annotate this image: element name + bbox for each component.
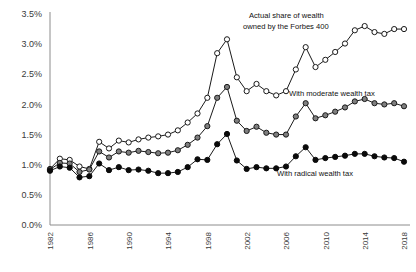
data-point bbox=[116, 165, 121, 170]
data-series-group bbox=[47, 23, 406, 180]
data-point bbox=[146, 135, 151, 140]
data-point bbox=[195, 135, 200, 140]
data-point bbox=[401, 104, 406, 109]
data-point bbox=[97, 139, 102, 144]
data-point bbox=[195, 111, 200, 116]
series-annotation-label: Actual share of wealth bbox=[249, 11, 324, 20]
data-point bbox=[342, 105, 347, 110]
wealth-share-chart: 0.0%0.5%1.0%1.5%2.0%2.5%3.0%3.5% 1982198… bbox=[0, 0, 416, 272]
data-point bbox=[47, 168, 52, 173]
data-point bbox=[362, 23, 367, 28]
data-point bbox=[244, 128, 249, 133]
x-tick-label: 2018 bbox=[400, 231, 409, 249]
data-point bbox=[126, 140, 131, 145]
data-point bbox=[323, 155, 328, 160]
x-tick-label: 1986 bbox=[86, 231, 95, 249]
data-point bbox=[382, 102, 387, 107]
data-point bbox=[283, 89, 288, 94]
data-point bbox=[136, 167, 141, 172]
x-tick-label: 2006 bbox=[282, 231, 291, 249]
data-point bbox=[156, 134, 161, 139]
data-point bbox=[126, 168, 131, 173]
data-point bbox=[244, 89, 249, 94]
data-point bbox=[165, 171, 170, 176]
data-point bbox=[215, 51, 220, 56]
data-point bbox=[215, 95, 220, 100]
data-point bbox=[392, 155, 397, 160]
data-point bbox=[205, 157, 210, 162]
data-point bbox=[146, 168, 151, 173]
data-point bbox=[372, 29, 377, 34]
x-tick-label: 2014 bbox=[361, 231, 370, 249]
data-point bbox=[224, 37, 229, 42]
x-axis: 1982198619901994199820022006201020142018 bbox=[46, 225, 410, 250]
data-point bbox=[372, 101, 377, 106]
y-tick-label: 0.5% bbox=[21, 190, 42, 200]
data-point bbox=[97, 149, 102, 154]
data-point bbox=[234, 75, 239, 80]
data-point bbox=[234, 118, 239, 123]
data-point bbox=[254, 124, 259, 129]
y-tick-label: 2.5% bbox=[21, 69, 42, 79]
data-point bbox=[234, 158, 239, 163]
data-point bbox=[67, 165, 72, 170]
data-point bbox=[116, 138, 121, 143]
data-point bbox=[195, 157, 200, 162]
data-point bbox=[333, 109, 338, 114]
data-point bbox=[264, 130, 269, 135]
x-tick-label: 1994 bbox=[164, 231, 173, 249]
data-point bbox=[87, 174, 92, 179]
data-point bbox=[401, 26, 406, 31]
y-tick-label: 0.0% bbox=[21, 220, 42, 230]
data-point bbox=[333, 154, 338, 159]
data-point bbox=[136, 137, 141, 142]
data-point bbox=[77, 175, 82, 180]
x-tick-label: 1982 bbox=[46, 231, 55, 249]
y-tick-label: 2.0% bbox=[21, 100, 42, 110]
series-line bbox=[50, 87, 404, 172]
data-point bbox=[323, 113, 328, 118]
data-point bbox=[382, 155, 387, 160]
x-tick-label: 2010 bbox=[322, 231, 331, 249]
data-point bbox=[106, 168, 111, 173]
data-point bbox=[185, 165, 190, 170]
data-point bbox=[352, 151, 357, 156]
series-annotation-label: With radical wealth tax bbox=[277, 169, 353, 178]
data-point bbox=[57, 164, 62, 169]
data-point bbox=[254, 165, 259, 170]
data-point bbox=[97, 161, 102, 166]
data-point bbox=[116, 149, 121, 154]
data-point bbox=[165, 150, 170, 155]
y-tick-label: 1.5% bbox=[21, 130, 42, 140]
data-point bbox=[274, 132, 279, 137]
data-point bbox=[165, 132, 170, 137]
data-point bbox=[185, 142, 190, 147]
data-point bbox=[392, 101, 397, 106]
data-point bbox=[244, 166, 249, 171]
data-point bbox=[205, 124, 210, 129]
y-tick-label: 3.5% bbox=[21, 9, 42, 19]
data-point bbox=[293, 67, 298, 72]
y-axis: 0.0%0.5%1.0%1.5%2.0%2.5%3.0%3.5% bbox=[21, 9, 50, 230]
y-tick-label: 3.0% bbox=[21, 39, 42, 49]
series-annotation-label: owned by the Forbes 400 bbox=[243, 22, 329, 31]
x-tick-label: 2002 bbox=[243, 231, 252, 249]
data-point bbox=[313, 64, 318, 69]
data-point bbox=[215, 142, 220, 147]
y-tick-label: 1.0% bbox=[21, 160, 42, 170]
data-point bbox=[205, 95, 210, 100]
data-point bbox=[362, 151, 367, 156]
data-point bbox=[77, 164, 82, 169]
data-point bbox=[87, 167, 92, 172]
data-point bbox=[333, 49, 338, 54]
data-point bbox=[175, 128, 180, 133]
data-point bbox=[224, 131, 229, 136]
data-point bbox=[342, 41, 347, 46]
x-tick-label: 1990 bbox=[125, 231, 134, 249]
chart-canvas: 0.0%0.5%1.0%1.5%2.0%2.5%3.0%3.5% 1982198… bbox=[0, 0, 416, 272]
data-point bbox=[156, 171, 161, 176]
data-point bbox=[303, 101, 308, 106]
data-point bbox=[224, 84, 229, 89]
data-point bbox=[175, 169, 180, 174]
data-point bbox=[146, 149, 151, 154]
